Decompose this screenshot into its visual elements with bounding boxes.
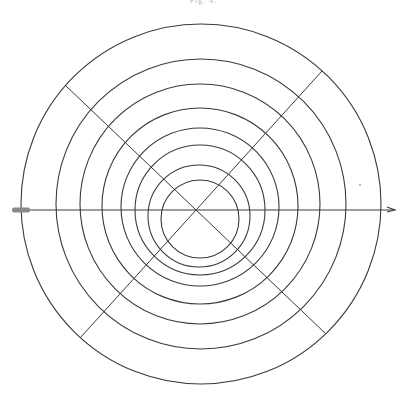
horizontal-axis (12, 184, 395, 212)
diagonal-line-2 (80, 71, 322, 338)
axis-tail-marker (12, 208, 30, 213)
circle-3 (80, 84, 320, 324)
circle-5 (121, 128, 279, 286)
diagonal-lines (65, 71, 325, 338)
diagonal-line-1 (65, 85, 325, 333)
circle-8 (161, 180, 239, 258)
speck-dot (359, 184, 361, 186)
concentric-circles-diagram (0, 0, 407, 395)
